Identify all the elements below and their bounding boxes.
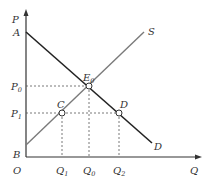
origin-label: O <box>13 165 21 176</box>
y-axis-label: P <box>11 14 19 25</box>
demand-end-label: D <box>153 141 162 152</box>
demand-start-label: A <box>12 27 20 38</box>
quantity-label-q2: Q2 <box>113 165 125 178</box>
price-label-p1: P1 <box>10 108 22 121</box>
x-axis-label: Q <box>190 165 198 176</box>
price-label-p0: P0 <box>10 81 22 94</box>
x-axis-arrow-icon <box>195 155 202 160</box>
guide-lines <box>26 86 119 157</box>
y-axis-arrow-icon <box>24 9 29 16</box>
supply-demand-diagram: P Q O A D B S E0 C D P0 P1 Q1 Q0 Q2 <box>0 0 207 186</box>
point-c <box>59 110 65 116</box>
point-d <box>116 110 122 116</box>
point-d-label: D <box>119 99 128 110</box>
quantity-label-q0: Q0 <box>83 165 95 178</box>
supply-end-label: S <box>148 26 155 37</box>
supply-curve <box>26 32 144 145</box>
point-c-label: C <box>57 99 65 110</box>
axes <box>24 9 203 160</box>
quantity-label-q1: Q1 <box>56 165 68 178</box>
points <box>59 83 122 116</box>
supply-start-label: B <box>12 149 20 160</box>
